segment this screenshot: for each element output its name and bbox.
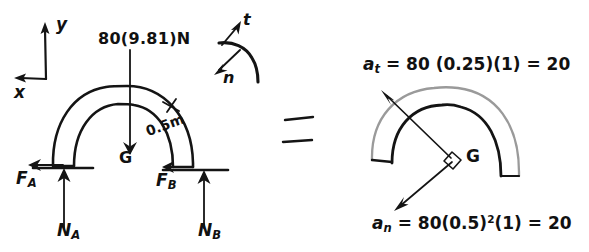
support-a-group bbox=[28, 159, 93, 228]
normal-force-b-label: NB bbox=[198, 222, 221, 242]
normal-subscript: n bbox=[383, 221, 391, 235]
axis-label-n: n bbox=[223, 70, 234, 86]
weight-force-arrow bbox=[123, 50, 137, 155]
acceleration-normal-arrow bbox=[394, 162, 452, 211]
friction-force-a-label: FA bbox=[16, 170, 37, 190]
normal-force-a-subscript: A bbox=[71, 228, 80, 242]
tangential-acceleration-equation: at = 80 (0.25)(1) = 20 bbox=[363, 56, 570, 76]
normal-force-b-symbol: N bbox=[198, 220, 212, 240]
normal-force-b-subscript: B bbox=[212, 228, 221, 242]
friction-force-a-subscript: A bbox=[28, 176, 37, 190]
normal-force-a-label: NA bbox=[57, 222, 80, 242]
acceleration-tangential-arrow bbox=[381, 90, 451, 158]
friction-force-b-symbol: F bbox=[156, 170, 168, 190]
friction-force-b-label: FB bbox=[156, 172, 176, 192]
tangential-symbol: a bbox=[363, 54, 374, 74]
path-axes-glyph bbox=[214, 21, 258, 82]
friction-force-a-symbol: F bbox=[16, 168, 28, 188]
tangential-equation-body: = 80 (0.25)(1) = 20 bbox=[386, 54, 570, 74]
normal-acceleration-equation: an = 80(0.5)2(1) = 20 bbox=[372, 214, 572, 235]
normal-symbol: a bbox=[372, 213, 383, 233]
global-axes-glyph bbox=[14, 22, 50, 83]
tangential-subscript: t bbox=[374, 62, 380, 76]
normal-force-a-symbol: N bbox=[57, 220, 71, 240]
equals-sign-glyph bbox=[283, 117, 313, 142]
axis-label-y: y bbox=[56, 16, 67, 33]
friction-force-b-subscript: B bbox=[168, 178, 177, 192]
figure-canvas: y x t n 80(9.81)N G 0.5m FA NA FB NB G a… bbox=[0, 0, 589, 252]
normal-equation-first: = 80(0.5) bbox=[398, 213, 487, 233]
kd-center-of-mass-label: G bbox=[466, 148, 480, 165]
axis-label-t: t bbox=[243, 12, 251, 28]
weight-force-label: 80(9.81)N bbox=[98, 31, 190, 47]
fbd-center-of-mass-label: G bbox=[119, 150, 132, 166]
normal-equation-last: (1) = 20 bbox=[494, 213, 571, 233]
axis-label-x: x bbox=[14, 84, 25, 101]
